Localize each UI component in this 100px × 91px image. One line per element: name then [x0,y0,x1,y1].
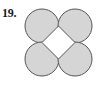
figure-card: 19. [0,0,100,91]
four-circles-square-figure [0,0,100,91]
